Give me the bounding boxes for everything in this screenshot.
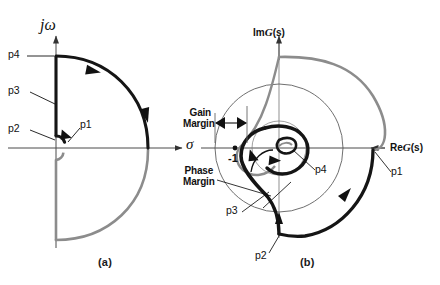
panel-b-label-p3: p3 (226, 205, 238, 216)
critical-point-marker (233, 146, 238, 151)
critical-point-label: -1 (228, 152, 238, 164)
panel-b-label-p1: p1 (391, 166, 403, 177)
phase-margin-line1: Phase (183, 166, 213, 177)
leader-p4-b (293, 150, 315, 170)
gain-margin-line2: Margin (183, 119, 211, 130)
caption-panel-a: (a) (98, 256, 112, 268)
leader-p3-b (242, 192, 269, 212)
panel-a-label-p3: p3 (8, 85, 20, 96)
leader-p1 (68, 128, 80, 142)
panel-b-label-p2: p2 (255, 250, 267, 261)
contour-infinite-arc (56, 56, 148, 148)
panel-b-g-plane: ImG(s) ReG(s) -1 Gain Margin Phase Margi… (195, 0, 440, 285)
real-axis-label: ReG(s) (390, 141, 423, 153)
gain-margin-arrow-left (215, 117, 225, 129)
imag-axis-label: ImG(s) (253, 26, 285, 38)
panel-b-label-p4: p4 (315, 164, 327, 175)
caption-panel-b: (b) (300, 256, 315, 268)
leader-p2 (30, 130, 55, 140)
contour-lower-arc (56, 150, 148, 240)
figure-root: jω σ p4 p3 p2 p1 (0, 0, 440, 285)
phase-margin-line2: Margin (183, 177, 213, 188)
leader-p2-b (269, 236, 279, 253)
gain-margin-line1: Gain (183, 108, 211, 119)
leader-p1-b (375, 152, 391, 172)
leader-phase-margin (217, 180, 271, 196)
panel-a-label-p2: p2 (8, 123, 20, 134)
jomega-axis-label: jω (40, 16, 56, 34)
panel-a-label-p1: p1 (80, 119, 92, 130)
contour-lower-indent (56, 153, 63, 160)
gain-margin-annotation: Gain Margin (183, 108, 211, 129)
panel-a-s-plane: jω σ p4 p3 p2 p1 (0, 0, 205, 285)
locus-p2-to-p3 (267, 196, 279, 234)
locus-origin-small-loop-gray (279, 143, 292, 146)
gain-margin-arrow-right (237, 117, 247, 129)
panel-a-svg (0, 0, 205, 285)
direction-arrow-large-arc (338, 188, 351, 202)
phase-margin-annotation: Phase Margin (183, 166, 213, 187)
sigma-axis-label: σ (186, 136, 193, 153)
locus-upper-outer-gray (279, 57, 385, 150)
leader-p3 (30, 92, 55, 104)
panel-a-label-p4: p4 (8, 49, 20, 60)
